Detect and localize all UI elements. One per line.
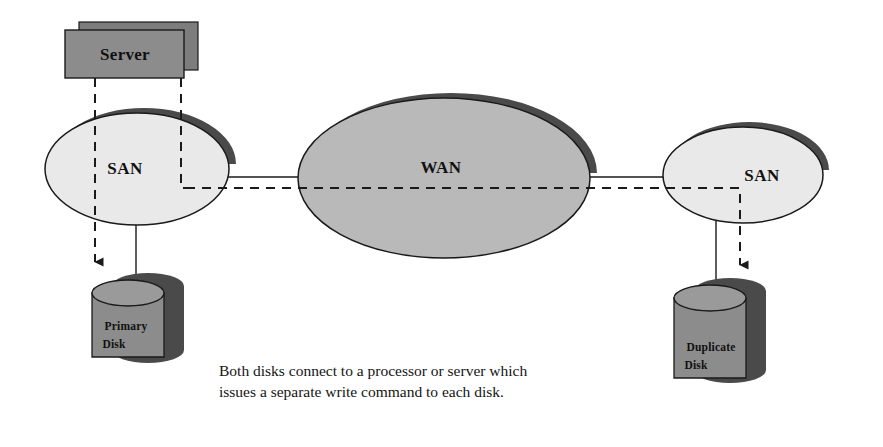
primary-disk-label-line2: Disk bbox=[102, 338, 126, 350]
node-primary-disk[interactable]: Primary Disk bbox=[92, 273, 184, 363]
san-right-ellipse bbox=[663, 127, 823, 223]
node-san-left[interactable]: SAN bbox=[45, 108, 236, 225]
duplicate-disk-label-line2: Disk bbox=[684, 359, 708, 371]
network-diagram: SAN WAN SAN Server Primary bbox=[0, 0, 883, 447]
server-label: Server bbox=[100, 45, 150, 64]
node-server[interactable]: Server bbox=[65, 22, 198, 78]
primary-disk-top bbox=[92, 280, 164, 306]
primary-disk-label-line1: Primary bbox=[105, 320, 148, 333]
node-san-right[interactable]: SAN bbox=[663, 122, 829, 223]
duplicate-disk-top bbox=[674, 285, 746, 311]
node-duplicate-disk[interactable]: Duplicate Disk bbox=[674, 278, 766, 383]
node-wan[interactable]: WAN bbox=[298, 93, 597, 258]
san-right-label: SAN bbox=[744, 166, 780, 185]
wan-ellipse bbox=[298, 98, 590, 258]
diagram-caption: Both disks connect to a processor or ser… bbox=[219, 360, 549, 402]
san-left-label: SAN bbox=[107, 159, 143, 178]
duplicate-disk-label-line1: Duplicate bbox=[686, 341, 735, 354]
wan-label: WAN bbox=[420, 158, 461, 177]
